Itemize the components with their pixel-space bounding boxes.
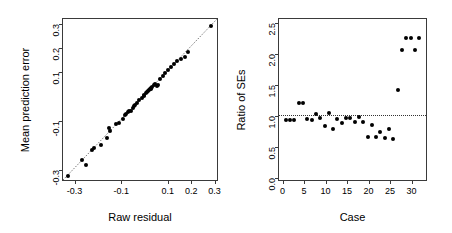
data-point	[99, 143, 103, 147]
data-point	[117, 121, 121, 125]
y-axis-tick-label: 0.2	[51, 48, 61, 61]
data-point	[409, 36, 413, 40]
data-point	[186, 50, 190, 54]
plot-area-right	[279, 19, 426, 180]
x-axis-tick-label: 5	[302, 186, 307, 196]
data-point	[183, 55, 187, 59]
data-point	[310, 118, 314, 122]
data-point	[417, 36, 421, 40]
data-point	[156, 83, 160, 87]
data-point	[314, 112, 318, 116]
data-point	[340, 121, 344, 125]
data-point	[348, 116, 352, 120]
x-axis-tick	[326, 180, 327, 184]
x-axis-tick	[191, 180, 192, 184]
x-axis-tick-label: 15	[342, 186, 352, 196]
plot-frame-right: 0510152025300.00.51.01.52.02.5	[278, 18, 427, 181]
data-point	[366, 135, 370, 139]
x-axis-tick	[390, 180, 391, 184]
x-axis-tick	[304, 180, 305, 184]
data-point	[327, 111, 331, 115]
data-point	[331, 127, 335, 131]
x-axis-tick	[215, 180, 216, 184]
panel-left: -0.3-0.10.10.20.3-0.3-0.10.10.20.3 Raw r…	[0, 0, 226, 233]
y-axis-tick-label: 2.0	[267, 54, 277, 67]
data-point	[413, 48, 417, 52]
y-axis-tick-label: -0.3	[51, 170, 61, 186]
y-axis-tick-label: 0.0	[267, 178, 277, 191]
x-axis-tick	[168, 180, 169, 184]
y-axis-title-left: Mean prediction error	[19, 47, 31, 152]
data-point	[387, 127, 391, 131]
x-axis-tick	[283, 180, 284, 184]
x-axis-tick-label: 20	[364, 186, 374, 196]
y-axis-tick-label: 0.1	[51, 72, 61, 85]
data-point	[383, 136, 387, 140]
data-point	[108, 129, 112, 133]
x-axis-tick-label: 0.1	[162, 186, 175, 196]
data-point	[209, 24, 213, 28]
data-point	[92, 146, 96, 150]
data-point	[391, 137, 395, 141]
data-point	[301, 101, 305, 105]
data-point	[80, 158, 84, 162]
x-axis-tick-label: 10	[321, 186, 331, 196]
data-point	[353, 120, 357, 124]
data-point	[374, 135, 378, 139]
y-axis-tick-label: 0.3	[51, 24, 61, 37]
data-point	[370, 123, 374, 127]
data-point	[66, 174, 70, 178]
x-axis-tick-label: 25	[385, 186, 395, 196]
data-point	[323, 124, 327, 128]
x-axis-tick	[369, 180, 370, 184]
y-axis-tick-label: -0.1	[51, 121, 61, 137]
y-axis-title-right: Ratio of SEs	[235, 69, 247, 130]
x-axis-tick	[412, 180, 413, 184]
data-point	[396, 88, 400, 92]
x-axis-tick	[121, 180, 122, 184]
data-point	[129, 109, 133, 113]
figure-container: -0.3-0.10.10.20.3-0.3-0.10.10.20.3 Raw r…	[0, 0, 452, 233]
y-axis-tick-label: 1.5	[267, 85, 277, 98]
ratio-reference-line	[279, 115, 426, 116]
x-axis-tick	[347, 180, 348, 184]
x-axis-title-left: Raw residual	[108, 211, 172, 223]
data-point	[357, 115, 361, 119]
data-point	[361, 120, 365, 124]
x-axis-tick-label: 0.3	[208, 186, 221, 196]
panel-right: 0510152025300.00.51.01.52.02.5 Case Rati…	[226, 0, 452, 233]
x-axis-tick-label: 0	[280, 186, 285, 196]
data-point	[105, 136, 109, 140]
x-axis-title-right: Case	[340, 211, 366, 223]
data-point	[400, 48, 404, 52]
y-axis-tick-label: 0.5	[267, 147, 277, 160]
x-axis-tick-label: -0.3	[67, 186, 83, 196]
y-axis-tick-label: 2.5	[267, 23, 277, 36]
y-axis-tick-label: 1.0	[267, 116, 277, 129]
x-axis-tick	[75, 180, 76, 184]
data-point	[172, 62, 176, 66]
data-point	[318, 116, 322, 120]
x-axis-tick-label: 0.2	[185, 186, 198, 196]
data-point	[378, 130, 382, 134]
data-point	[84, 163, 88, 167]
data-point	[335, 117, 339, 121]
x-axis-tick-label: -0.1	[113, 186, 129, 196]
data-point	[121, 117, 125, 121]
x-axis-tick-label: 30	[407, 186, 417, 196]
plot-frame-left: -0.3-0.10.10.20.3-0.3-0.10.10.20.3	[62, 18, 218, 181]
data-point	[292, 118, 296, 122]
plot-area-left	[63, 19, 217, 180]
